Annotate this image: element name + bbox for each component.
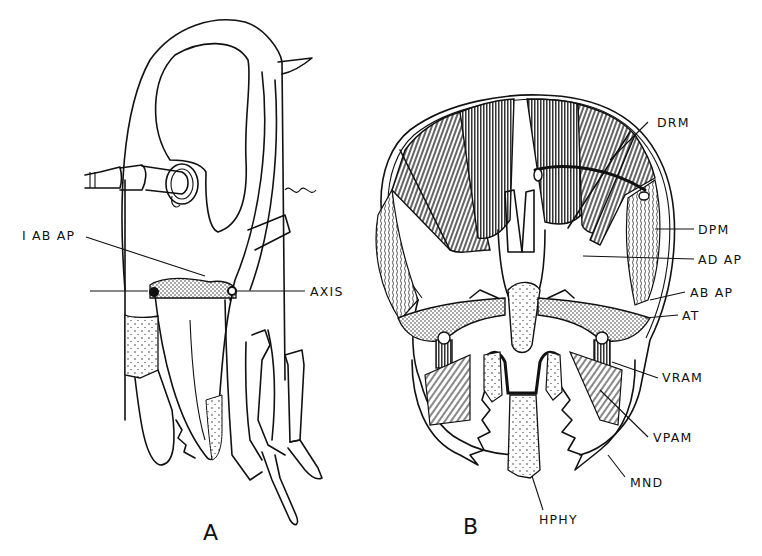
panel-a-annotations: I AB AP AXIS A [22, 228, 344, 545]
label-at: AT [682, 308, 700, 323]
pointer-iabap [86, 237, 205, 276]
label-axis: AXIS [310, 284, 344, 299]
label-adap: AD AP [698, 252, 742, 267]
panel-b-drawing [376, 95, 674, 478]
pointer-at [645, 315, 678, 318]
label-abap: AB AP [690, 285, 733, 300]
panel-a-label: A [203, 520, 218, 545]
label-mnd: MND [630, 475, 663, 490]
anatomical-figure: I AB AP AXIS A [0, 0, 762, 556]
figure-canvas: I AB AP AXIS A [0, 0, 762, 556]
label-dpm: DPM [698, 222, 730, 237]
pointer-hphy [532, 476, 543, 510]
pointer-mnd [608, 455, 625, 477]
label-vpam: VPAM [653, 430, 692, 445]
label-hphy: HPHY [539, 512, 578, 527]
label-vram: VRAM [662, 370, 703, 385]
label-drm: DRM [657, 115, 690, 130]
label-iabap: I AB AP [22, 228, 75, 243]
panel-a-drawing [85, 20, 322, 525]
panel-b-label: B [463, 514, 478, 539]
